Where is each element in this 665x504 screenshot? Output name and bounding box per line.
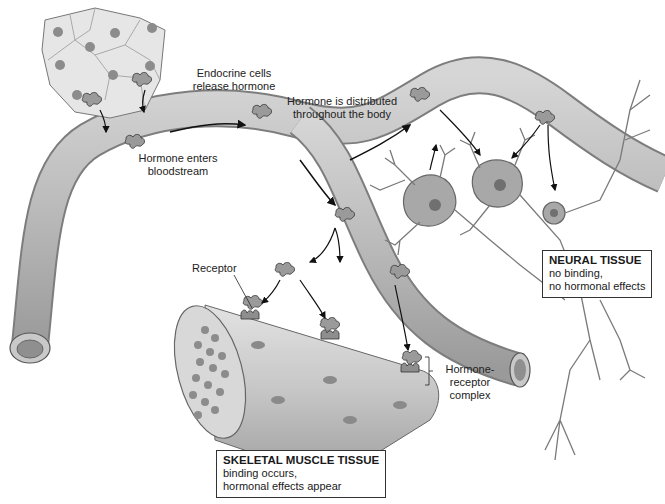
label-receptor: Receptor: [192, 262, 237, 275]
blood-vessel: [10, 75, 665, 387]
label-line: receptor: [440, 376, 500, 389]
neural-tissue-box: NEURAL TISSUE no binding, no hormonal ef…: [542, 250, 652, 298]
label-line: throughout the body: [283, 108, 401, 121]
box-line: no binding,: [549, 267, 645, 280]
label-hormone-enters: Hormone enters bloodstream: [128, 152, 228, 178]
box-line: binding occurs,: [223, 467, 379, 480]
label-line: bloodstream: [128, 165, 228, 178]
label-hormone-receptor-complex: Hormone- receptor complex: [440, 363, 500, 402]
label-line: Hormone is distributed: [283, 95, 401, 108]
box-line: no hormonal effects: [549, 280, 645, 293]
label-line: Hormone enters: [128, 152, 228, 165]
label-hormone-distributed: Hormone is distributed throughout the bo…: [283, 95, 401, 121]
box-title: NEURAL TISSUE: [549, 254, 645, 267]
box-line: hormonal effects appear: [223, 480, 379, 493]
label-line: release hormone: [178, 80, 290, 93]
label-endocrine-cells: Endocrine cells release hormone: [178, 67, 290, 93]
label-line: Hormone-: [440, 363, 500, 376]
box-title: SKELETAL MUSCLE TISSUE: [223, 454, 379, 467]
label-line: Receptor: [192, 262, 237, 274]
label-line: Endocrine cells: [178, 67, 290, 80]
label-line: complex: [440, 389, 500, 402]
skeletal-muscle-box: SKELETAL MUSCLE TISSUE binding occurs, h…: [216, 450, 386, 498]
